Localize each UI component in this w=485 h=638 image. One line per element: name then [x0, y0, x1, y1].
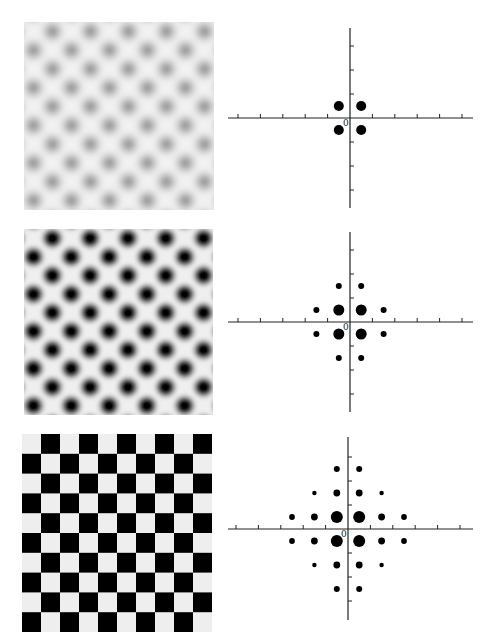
checkerboard-pattern-sharp	[22, 434, 212, 632]
svg-text:0: 0	[343, 118, 349, 128]
checkerboard-pattern-low-contrast	[24, 22, 214, 210]
fourier-spectrum-plot-3: 0	[228, 437, 473, 620]
svg-text:0: 0	[341, 529, 347, 539]
fourier-spectrum-plot-2: 0	[228, 232, 473, 412]
svg-text:0: 0	[343, 322, 349, 332]
fourier-spectrum-plot-1: 0	[228, 28, 473, 208]
checkerboard-pattern-high-contrast	[24, 229, 213, 415]
